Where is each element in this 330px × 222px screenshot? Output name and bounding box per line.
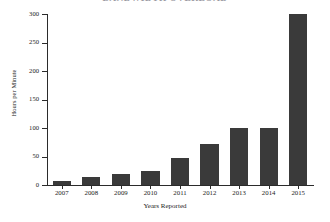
bar	[141, 171, 159, 185]
bar	[82, 177, 100, 185]
bar	[112, 174, 130, 185]
y-tick-mark	[42, 185, 47, 186]
y-tick-label: 0	[0, 182, 39, 189]
x-tick-label: 2015	[278, 190, 318, 197]
bar-chart-figure: BANDWIDTH OVERLOAD Hours per Minute 0501…	[0, 0, 330, 222]
chart-title: BANDWIDTH OVERLOAD	[0, 0, 330, 3]
y-tick-label: 300	[0, 11, 39, 18]
plot-area	[47, 14, 313, 185]
bar	[200, 144, 218, 185]
y-tick-label: 50	[0, 153, 39, 160]
x-axis-label: Years Reported	[0, 202, 330, 210]
y-tick-label: 250	[0, 39, 39, 46]
bar	[289, 14, 307, 185]
bar	[53, 181, 71, 185]
bar	[171, 158, 189, 185]
y-axis-label: Hours per Minute	[10, 0, 20, 188]
y-tick-label: 200	[0, 68, 39, 75]
y-tick-label: 150	[0, 96, 39, 103]
bar	[230, 128, 248, 185]
bar	[260, 128, 278, 185]
y-tick-label: 100	[0, 125, 39, 132]
